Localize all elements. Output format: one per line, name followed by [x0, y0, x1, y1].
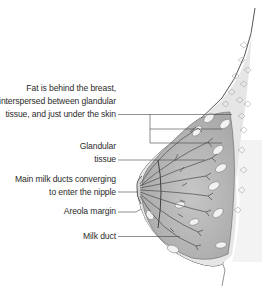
label-areola-line-1: Areola margin — [64, 205, 116, 218]
label-areola-margin: Areola margin — [64, 205, 116, 218]
glandular-tissue-region — [141, 112, 234, 259]
label-glandular-line-2: tissue — [80, 153, 116, 166]
breast-illustration — [0, 0, 262, 301]
label-fat-line-2: interspersed between glandular — [0, 95, 116, 108]
label-milk-duct-line-1: Milk duct — [83, 230, 116, 243]
label-fat-line-1: Fat is behind the breast, — [0, 82, 116, 95]
label-main-ducts-line-1: Main milk ducts converging — [15, 173, 116, 186]
label-milk-duct: Milk duct — [83, 230, 116, 243]
label-fat-line-3: tissue, and just under the skin — [0, 108, 116, 121]
leader-areola — [118, 209, 141, 212]
label-glandular-line-1: Glandular — [80, 140, 116, 153]
label-fat: Fat is behind the breast, interspersed b… — [0, 82, 116, 121]
label-glandular-tissue: Glandular tissue — [80, 140, 116, 166]
label-main-milk-ducts: Main milk ducts converging to enter the … — [15, 173, 116, 199]
label-main-ducts-line-2: to enter the nipple — [15, 186, 116, 199]
breast-anatomy-diagram: Fat is behind the breast, interspersed b… — [0, 0, 262, 301]
